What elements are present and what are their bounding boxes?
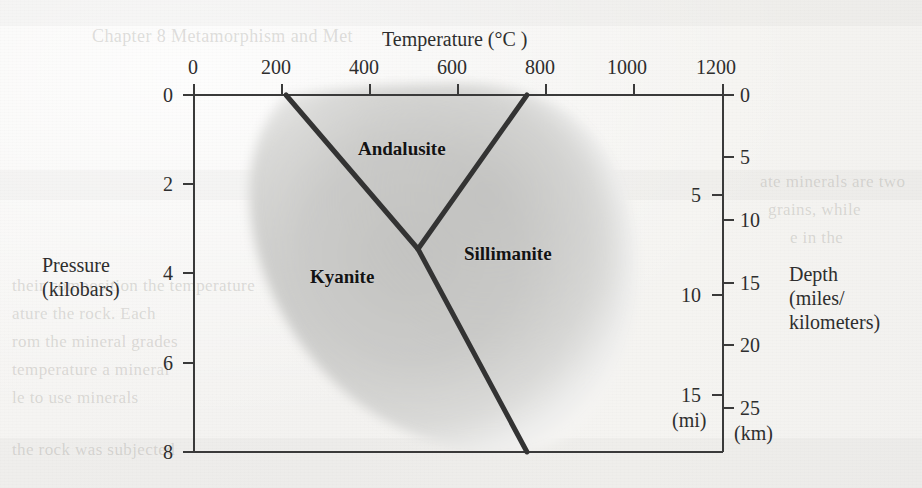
depth-km-tick-label: 25 bbox=[740, 398, 760, 418]
figure-page: Chapter 8 Metamorphism and Met ate miner… bbox=[0, 0, 922, 488]
temperature-tick-label: 200 bbox=[261, 57, 291, 77]
pressure-axis-title-line2: (kilobars) bbox=[42, 278, 120, 301]
phase-label-andalusite: Andalusite bbox=[358, 138, 446, 160]
depth-miles-axis-ticks bbox=[712, 195, 723, 395]
depth-km-tick-label: 20 bbox=[740, 335, 760, 355]
depth-km-tick-label: 5 bbox=[740, 147, 750, 167]
phase-label-kyanite: Kyanite bbox=[310, 266, 374, 288]
temperature-tick-label: 600 bbox=[437, 57, 467, 77]
depth-kilometers-axis-ticks bbox=[723, 95, 734, 408]
depth-km-unit-label: (km) bbox=[734, 423, 773, 443]
depth-axis-title-line3: kilometers) bbox=[789, 311, 880, 334]
depth-km-tick-label: 10 bbox=[740, 210, 760, 230]
temperature-tick-label: 0 bbox=[188, 57, 198, 77]
depth-axis-title-line2: (miles/ bbox=[789, 287, 845, 310]
pressure-tick-label: 8 bbox=[163, 442, 173, 462]
pressure-tick-label: 2 bbox=[163, 174, 173, 194]
depth-miles-unit-label: (mi) bbox=[672, 410, 706, 430]
depth-miles-tick-label: 5 bbox=[691, 185, 701, 205]
depth-km-tick-label: 0 bbox=[740, 85, 750, 105]
phase-label-sillimanite: Sillimanite bbox=[464, 243, 552, 265]
temperature-axis-ticks bbox=[194, 84, 723, 95]
temperature-tick-label: 1200 bbox=[696, 57, 736, 77]
pressure-axis-title-line1: Pressure bbox=[42, 254, 110, 277]
pressure-tick-label: 6 bbox=[163, 353, 173, 373]
depth-miles-tick-label: 15 bbox=[681, 385, 701, 405]
pressure-axis-ticks bbox=[183, 95, 194, 452]
temperature-tick-label: 1000 bbox=[607, 57, 647, 77]
temperature-tick-label: 400 bbox=[349, 57, 379, 77]
depth-miles-tick-label: 10 bbox=[681, 285, 701, 305]
depth-axis-title-line1: Depth bbox=[789, 263, 838, 286]
phase-diagram: Temperature (°C ) 0 200 400 600 800 1000… bbox=[0, 0, 922, 488]
temperature-tick-label: 800 bbox=[525, 57, 555, 77]
pressure-tick-label: 4 bbox=[163, 263, 173, 283]
depth-km-tick-label: 15 bbox=[740, 273, 760, 293]
pressure-tick-label: 0 bbox=[163, 85, 173, 105]
temperature-axis-title: Temperature (°C ) bbox=[382, 28, 527, 51]
